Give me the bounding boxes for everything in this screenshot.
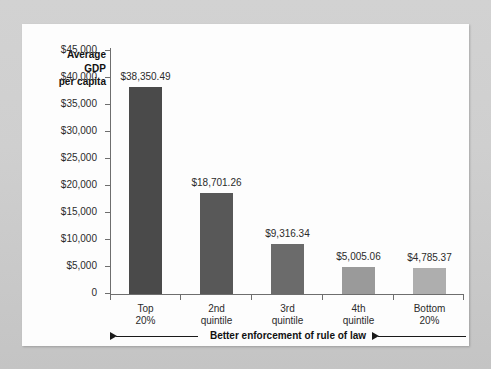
annotation-text: Better enforcement of rule of law [204,329,372,343]
x-tick-5 [463,295,464,300]
x-category-line-1-2: quintile [201,315,233,326]
bar-4th-quintile[interactable]: $5,005.06 4thquintile [342,267,375,294]
x-category-label-0: Top20% [135,303,155,327]
y-tick-7: $35,000 [105,104,110,105]
bar-value-label-0: $38,350.49 [120,71,170,83]
y-tick-5: $25,000 [105,158,110,159]
rule-of-law-annotation: Better enforcement of rule of law [110,329,466,345]
x-tick-2 [251,295,252,300]
bar-value-label-1: $18,701.26 [191,177,241,189]
x-category-line-4-1: Bottom [414,303,446,314]
bar-value-label-4: $4,785.37 [407,252,452,264]
y-tick-1: $5,000 [105,266,110,267]
y-tick-6: $30,000 [105,131,110,132]
x-category-line-1-1: 2nd [208,303,225,314]
x-category-line-0-2: 20% [135,315,155,326]
y-tick-label-3: $15,000 [61,205,97,218]
x-tick-3 [322,295,323,300]
x-category-line-3-2: quintile [343,315,375,326]
bar-bottom-20[interactable]: $4,785.37 Bottom20% [413,268,446,294]
y-tick-3: $15,000 [105,212,110,213]
x-category-line-2-2: quintile [272,315,304,326]
bar-3rd-quintile[interactable]: $9,316.34 3rdquintile [271,244,304,294]
x-category-line-3-1: 4th [352,303,366,314]
bar-value-label-3: $5,005.06 [336,251,381,263]
bar-top-20[interactable]: $38,350.49 Top20% [129,87,162,294]
x-axis-line [110,294,464,295]
y-tick-0: 0 [105,293,110,294]
annotation-rule-left [116,336,198,337]
y-tick-2: $10,000 [105,239,110,240]
x-category-label-2: 3rdquintile [272,303,304,327]
x-tick-4 [393,295,394,300]
y-tick-9: $45,000 [105,50,110,51]
y-tick-label-4: $20,000 [61,178,97,191]
figure-panel: Average GDP per capita 0 $5,000 $10,000 … [22,24,469,346]
x-category-line-4-2: 20% [419,315,439,326]
y-tick-label-6: $30,000 [61,124,97,137]
bar-2nd-quintile[interactable]: $18,701.26 2ndquintile [200,193,233,294]
y-tick-label-8: $40,000 [61,70,97,83]
annotation-rule-right [378,336,466,337]
figure-page: Average GDP per capita 0 $5,000 $10,000 … [0,0,491,369]
y-tick-label-7: $35,000 [61,97,97,110]
y-tick-label-9: $45,000 [61,43,97,56]
x-category-line-0-1: Top [137,303,153,314]
y-tick-label-2: $10,000 [61,232,97,245]
y-tick-label-0: 0 [91,286,97,299]
x-category-label-3: 4thquintile [343,303,375,327]
bar-value-label-2: $9,316.34 [265,228,310,240]
y-tick-8: $40,000 [105,77,110,78]
y-tick-4: $20,000 [105,185,110,186]
x-tick-0 [110,295,111,300]
y-tick-label-5: $25,000 [61,151,97,164]
x-category-label-1: 2ndquintile [201,303,233,327]
y-axis-line [110,48,111,295]
y-tick-label-1: $5,000 [66,259,97,272]
x-category-line-2-1: 3rd [280,303,294,314]
x-tick-1 [180,295,181,300]
plot-area: 0 $5,000 $10,000 $15,000 $20,000 $25,000… [110,52,464,295]
x-category-label-4: Bottom20% [414,303,446,327]
